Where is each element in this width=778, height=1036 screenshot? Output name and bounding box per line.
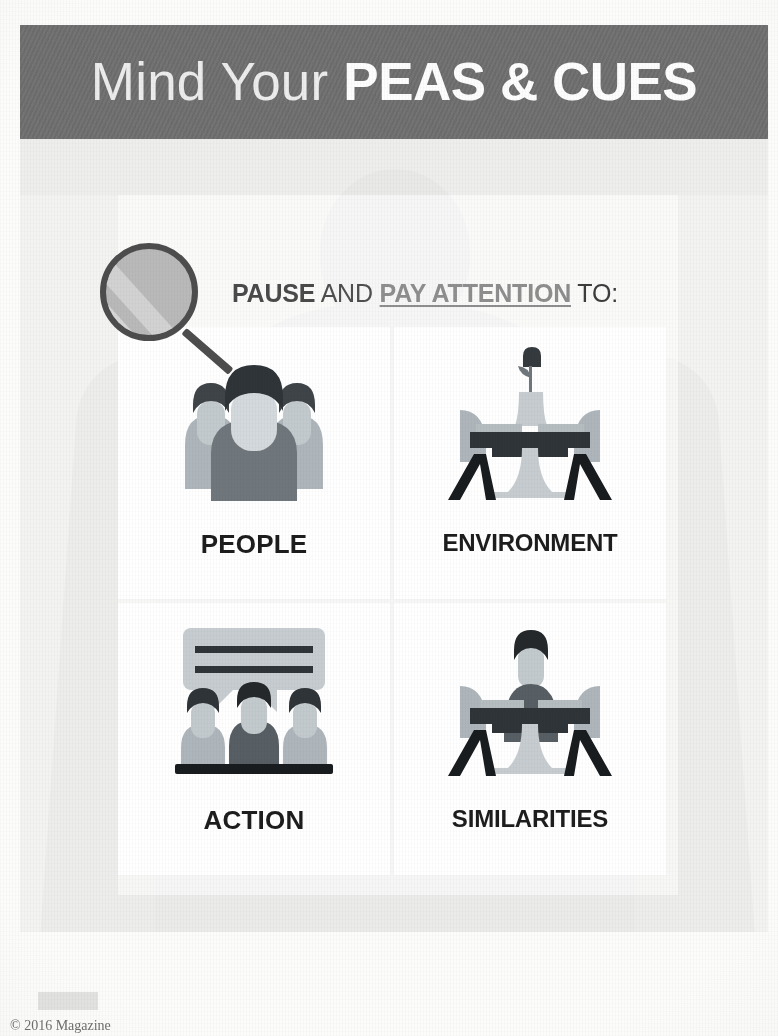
title-light-part: Mind Your <box>91 52 343 111</box>
panel-label-people: PEOPLE <box>201 529 308 560</box>
instruction-to: TO: <box>571 279 618 307</box>
people-speech-bubble-icon <box>118 609 390 805</box>
magnifier-lens <box>100 243 198 341</box>
title-bold-part: PEAS & CUES <box>343 52 697 111</box>
instruction-and: AND <box>315 279 379 307</box>
table-chairs-vase-icon <box>394 333 666 529</box>
panel-environment[interactable]: ENVIRONMENT <box>394 327 666 599</box>
page-title: Mind Your PEAS & CUES <box>91 55 697 108</box>
panel-label-action: ACTION <box>204 805 305 836</box>
header-bar: Mind Your PEAS & CUES <box>20 25 768 139</box>
panel-label-similarities: SIMILARITIES <box>452 805 608 833</box>
quadrant-grid: PEOPLE <box>118 327 666 883</box>
magnifying-glass-icon <box>100 243 235 388</box>
magnifier-handle <box>181 328 233 375</box>
instruction-pay-attention: PAY ATTENTION <box>380 279 571 307</box>
person-at-table-icon <box>394 609 666 805</box>
instruction-line: PAUSE AND PAY ATTENTION TO: <box>232 279 618 308</box>
copyright-notice: © 2016 Magazine <box>10 1018 111 1036</box>
footer-gray-strip <box>38 992 98 1010</box>
instruction-pause: PAUSE <box>232 279 315 307</box>
page-sheet: Mind Your PEAS & CUES PAUSE AND PAY ATTE… <box>0 0 778 1036</box>
panel-similarities[interactable]: SIMILARITIES <box>394 603 666 875</box>
panel-action[interactable]: ACTION <box>118 603 390 875</box>
panel-label-environment: ENVIRONMENT <box>442 529 617 557</box>
